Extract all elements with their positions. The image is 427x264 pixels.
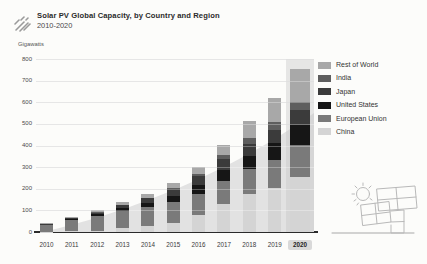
chart-subtitle: 2010-2020 [37, 21, 220, 31]
gridline-overlay [36, 210, 314, 211]
legend-item-rest-of-world: Rest of World [318, 61, 387, 69]
y-tick-label: 0 [6, 229, 32, 235]
x-tick-label-2014: 2014 [141, 241, 155, 248]
y-tick-label: 600 [6, 99, 32, 105]
y-tick-label: 100 [6, 207, 32, 213]
bar-segment-japan [167, 189, 180, 196]
gridline-overlay [36, 81, 314, 82]
legend-item-label: China [336, 128, 354, 136]
x-tick-label-2016: 2016 [192, 241, 206, 248]
bar-2016 [192, 167, 205, 232]
bar-2019 [268, 98, 281, 232]
legend-item-label: India [336, 74, 351, 82]
bar-2014 [141, 194, 154, 232]
legend-item-label: European Union [336, 115, 387, 123]
legend-item-label: Japan [336, 88, 355, 96]
gridline-overlay [36, 189, 314, 190]
x-tick-label-2013: 2013 [116, 241, 130, 248]
bar-segment-china [91, 231, 104, 233]
plot-area [36, 59, 314, 232]
bar-segment-european-union [91, 216, 104, 231]
bar-segment-japan [268, 130, 281, 143]
legend-swatch [318, 128, 331, 135]
chart-title: Solar PV Global Capacity, by Country and… [37, 10, 220, 21]
x-tick-label-2017: 2017 [217, 241, 231, 248]
bar-segment-european-union [65, 220, 78, 231]
y-tick-label: 400 [6, 142, 32, 148]
legend-item-japan: Japan [318, 88, 387, 96]
bar-segment-china [290, 177, 310, 232]
legend-item-european-union: European Union [318, 115, 387, 123]
x-tick-label-2015: 2015 [166, 241, 180, 248]
bar-segment-china [217, 204, 230, 232]
gridline-overlay [36, 102, 314, 103]
x-tick-label-2011: 2011 [65, 241, 79, 248]
bar-segment-united-states [290, 125, 310, 145]
bar-2018 [243, 121, 256, 232]
y-tick-label: 300 [6, 164, 32, 170]
bar-segment-european-union [290, 145, 310, 178]
bar-2010 [40, 223, 53, 232]
bar-segment-european-union [167, 202, 180, 223]
bar-2020 [290, 69, 310, 232]
legend-item-label: Rest of World [336, 61, 378, 69]
legend-item-label: United States [336, 101, 378, 109]
bar-segment-china [192, 215, 205, 232]
gridline-overlay [36, 146, 314, 147]
bar-segment-china [116, 228, 129, 232]
bar-segment-united-states [217, 170, 230, 181]
bar-segment-china [141, 226, 154, 232]
gridline-overlay [36, 167, 314, 168]
x-tick-label-2020: 2020 [288, 240, 312, 250]
bar-2011 [65, 217, 78, 232]
y-axis-unit-label: Gigawatts [18, 41, 44, 47]
bar-2015 [167, 183, 180, 232]
bar-segment-european-union [116, 211, 129, 228]
bar-2012 [91, 210, 104, 232]
x-tick-label-2018: 2018 [242, 241, 256, 248]
legend-item-india: India [318, 74, 387, 82]
bar-segment-rest-of-world [217, 145, 230, 155]
legend: Rest of WorldIndiaJapanUnited StatesEuro… [318, 61, 387, 136]
bar-segment-china [65, 231, 78, 232]
legend-swatch [318, 88, 331, 95]
bar-segment-china [243, 194, 256, 232]
bar-segment-china [167, 223, 180, 233]
bar-segment-rest-of-world [290, 69, 310, 102]
bar-segment-japan [290, 110, 310, 124]
y-tick-label: 500 [6, 120, 32, 126]
bar-segment-european-union [243, 169, 256, 194]
legend-swatch [318, 62, 331, 69]
legend-swatch [318, 75, 331, 82]
y-tick-label: 800 [6, 56, 32, 62]
y-tick-label: 700 [6, 77, 32, 83]
gridline-overlay [36, 59, 314, 60]
chart-page: Solar PV Global Capacity, by Country and… [0, 0, 427, 264]
bar-segment-european-union [268, 160, 281, 188]
legend-item-china: China [318, 128, 387, 136]
legend-swatch [318, 102, 331, 109]
figure-hatch-icon [11, 12, 33, 34]
sun-icon [357, 188, 370, 201]
legend-item-united-states: United States [318, 101, 387, 109]
x-tick-label-2019: 2019 [268, 241, 282, 248]
y-tick-label: 200 [6, 185, 32, 191]
x-tick-label-2012: 2012 [90, 241, 104, 248]
bar-segment-european-union [217, 181, 230, 204]
solar-panel-illustration [330, 172, 422, 236]
bar-2013 [116, 202, 129, 232]
legend-swatch [318, 115, 331, 122]
bar-segment-japan [192, 176, 205, 185]
x-tick-label-2010: 2010 [39, 241, 53, 248]
gridline-overlay [36, 124, 314, 125]
title-block: Solar PV Global Capacity, by Country and… [37, 10, 220, 31]
bar-segment-european-union [192, 194, 205, 216]
